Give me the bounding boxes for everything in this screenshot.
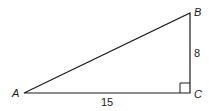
right-angle-marker [180, 83, 190, 93]
triangle-abc [24, 13, 190, 93]
vertex-label-c: C [194, 88, 202, 100]
vertex-label-a: A [11, 87, 19, 99]
triangle-diagram: A B C 8 15 [0, 0, 209, 111]
side-label-ac: 15 [101, 96, 113, 108]
vertex-label-b: B [194, 6, 201, 18]
side-label-bc: 8 [194, 47, 200, 59]
